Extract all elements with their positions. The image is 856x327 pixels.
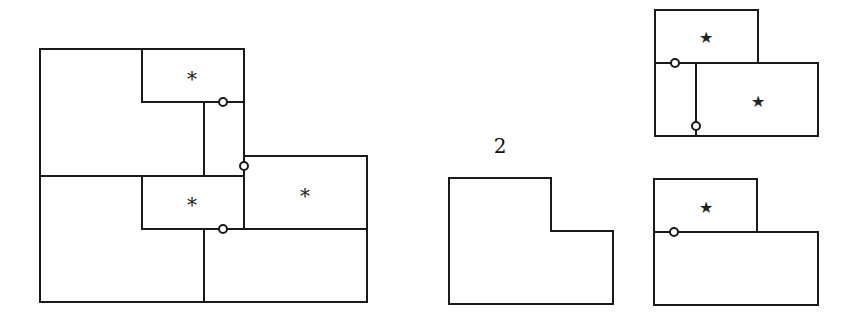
figure-label: 2: [494, 134, 507, 158]
floorplan-diagram: * * * 2 ★ ★ ★: [0, 0, 856, 327]
asterisk-mark: *: [187, 67, 197, 91]
asterisk-mark: *: [300, 184, 310, 208]
door-node: [240, 162, 248, 170]
star-mark: ★: [699, 198, 713, 217]
right-top-panel: ★ ★: [655, 10, 818, 136]
star-mark: ★: [751, 92, 765, 111]
door-node: [219, 98, 227, 106]
left-panel: * * *: [40, 49, 367, 302]
door-node: [219, 225, 227, 233]
star-mark: ★: [699, 28, 713, 47]
asterisk-mark: *: [187, 193, 197, 217]
right-bottom-panel: ★: [654, 179, 818, 305]
lower-star-room: [142, 176, 367, 229]
door-node: [670, 228, 678, 236]
outline: [655, 10, 818, 136]
door-node: [671, 59, 679, 67]
outline: [654, 179, 818, 305]
middle-panel: 2: [449, 134, 613, 304]
l-shape-outline: [449, 178, 613, 304]
door-node: [692, 122, 700, 130]
